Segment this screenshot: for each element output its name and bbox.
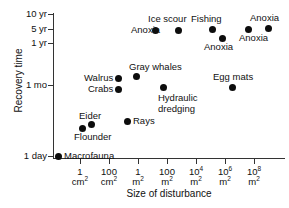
y-axis-line [53,13,54,159]
y-tick-mark [48,85,53,86]
data-point-label: Flounder [74,132,112,143]
data-point-label: Egg mats [213,72,253,83]
data-point [115,75,122,82]
data-point-label: Anoxia [239,33,268,44]
data-point [133,73,140,80]
data-point [115,86,122,93]
data-point [229,84,236,91]
data-point-label: Anoxia [204,42,233,53]
data-point-label: Anoxia [250,13,279,24]
x-tick-mark [254,159,255,164]
data-point [88,121,95,128]
data-point-label: Macrofauna [64,151,114,162]
y-axis-title: Recovery time [13,26,24,136]
data-point-label: Eider [79,111,101,122]
y-tick-label: 1 yr [0,38,47,48]
y-tick-label-text: 5 yr [31,24,47,34]
data-point [265,25,272,32]
y-tick-mark [48,14,53,15]
y-tick-label: 1 mo [0,80,47,90]
data-point-label: Anoxia [131,25,160,36]
x-axis-title: Size of disturbance [53,188,285,199]
y-tick-label: 1 day [0,151,47,161]
y-tick-mark [48,156,53,157]
data-point [209,26,216,33]
data-point-label: Fishing [191,14,222,25]
data-point [160,84,167,91]
x-tick-mark [167,159,168,164]
data-point-label: Ice scour [148,14,187,25]
x-tick-label-unit: m2 [232,176,276,187]
data-point [175,27,182,34]
x-tick-mark [225,159,226,164]
data-point-label: Crabs [88,84,113,95]
data-point-label: Gray whales [129,62,182,73]
y-tick-mark [48,43,53,44]
x-tick-mark [196,159,197,164]
y-tick-mark [48,29,53,30]
y-tick-label: 10 yr [0,9,47,19]
scatter-chart: 10 yr5 yr1 yr1 mo1 day 1cm2100cm21m2100m… [0,0,289,208]
data-point [124,118,131,125]
data-point-label: Walrus [84,73,113,84]
y-tick-label-text: 1 mo [26,80,47,90]
y-tick-label-text: 1 day [24,151,47,161]
y-tick-label-text: 10 yr [26,9,47,19]
data-point-label: Hydraulicdredging [158,93,198,114]
data-point-label: Rays [133,116,155,127]
x-tick-mark [138,159,139,164]
y-tick-label-text: 1 yr [31,38,47,48]
y-tick-label: 5 yr [0,24,47,34]
data-point [55,153,62,160]
